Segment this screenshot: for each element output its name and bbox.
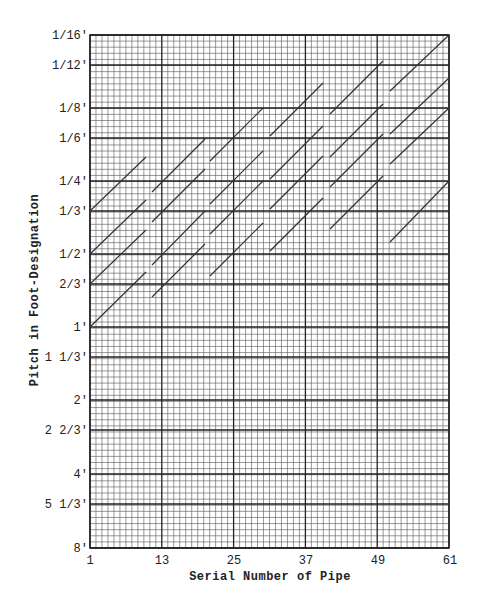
pipe-rank-segment [390, 108, 449, 164]
x-tick-label: 61 [443, 554, 457, 568]
x-axis-tick-labels: 11325374961 [86, 554, 457, 568]
pipe-rank-segment [152, 169, 205, 222]
pipe-rank-segment [270, 83, 323, 136]
y-tick-label: 1/8' [59, 102, 88, 116]
pipe-rank-segment [330, 104, 383, 157]
x-tick-label: 13 [155, 554, 169, 568]
pipe-rank-segment [330, 61, 383, 114]
x-tick-label: 49 [371, 554, 385, 568]
y-tick-label: 2 2/3' [45, 424, 88, 438]
grid-minor [90, 35, 449, 548]
y-tick-label: 2/3' [59, 278, 88, 292]
y-axis-title: Pitch in Foot-Designation [28, 194, 42, 387]
pipe-rank-segment [210, 223, 263, 276]
pipe-rank-segment [330, 176, 383, 229]
pipe-rank-segment [210, 181, 263, 234]
y-axis-tick-labels: 1/16'1/12'1/8'1/6'1/4'1/3'1/2'2/3'1'1 1/… [45, 29, 88, 556]
pipe-rank-segment [270, 126, 323, 179]
y-tick-label: 1/4' [59, 175, 88, 189]
y-tick-label: 1/16' [52, 29, 88, 43]
y-tick-label: 2' [74, 394, 88, 408]
pipe-scale-chart: 1/16'1/12'1/8'1/6'1/4'1/3'1/2'2/3'1'1 1/… [0, 0, 482, 597]
pipe-rank-segment [210, 151, 263, 204]
pipe-rank-segment [330, 134, 383, 187]
pipe-rank-segment [152, 244, 205, 297]
x-tick-label: 1 [86, 554, 93, 568]
pipe-rank-segment [390, 35, 449, 91]
x-axis-title: Serial Number of Pipe [189, 570, 351, 584]
y-tick-label: 1/2' [59, 248, 88, 262]
y-tick-label: 1/12' [52, 59, 88, 73]
x-tick-label: 25 [227, 554, 241, 568]
y-tick-label: 4' [74, 468, 88, 482]
pipe-rank-segment [152, 139, 205, 192]
y-tick-label: 1/6' [59, 132, 88, 146]
pipe-rank-segment [390, 78, 449, 134]
y-tick-label: 1/3' [59, 205, 88, 219]
x-tick-label: 37 [299, 554, 313, 568]
y-tick-label: 1' [74, 321, 88, 335]
y-tick-label: 1 1/3' [45, 351, 88, 365]
pipe-rank-segment [152, 211, 205, 265]
y-tick-label: 5 1/3' [45, 498, 88, 512]
pipe-rank-segment [210, 108, 263, 161]
pipe-rank-segment [270, 156, 323, 209]
